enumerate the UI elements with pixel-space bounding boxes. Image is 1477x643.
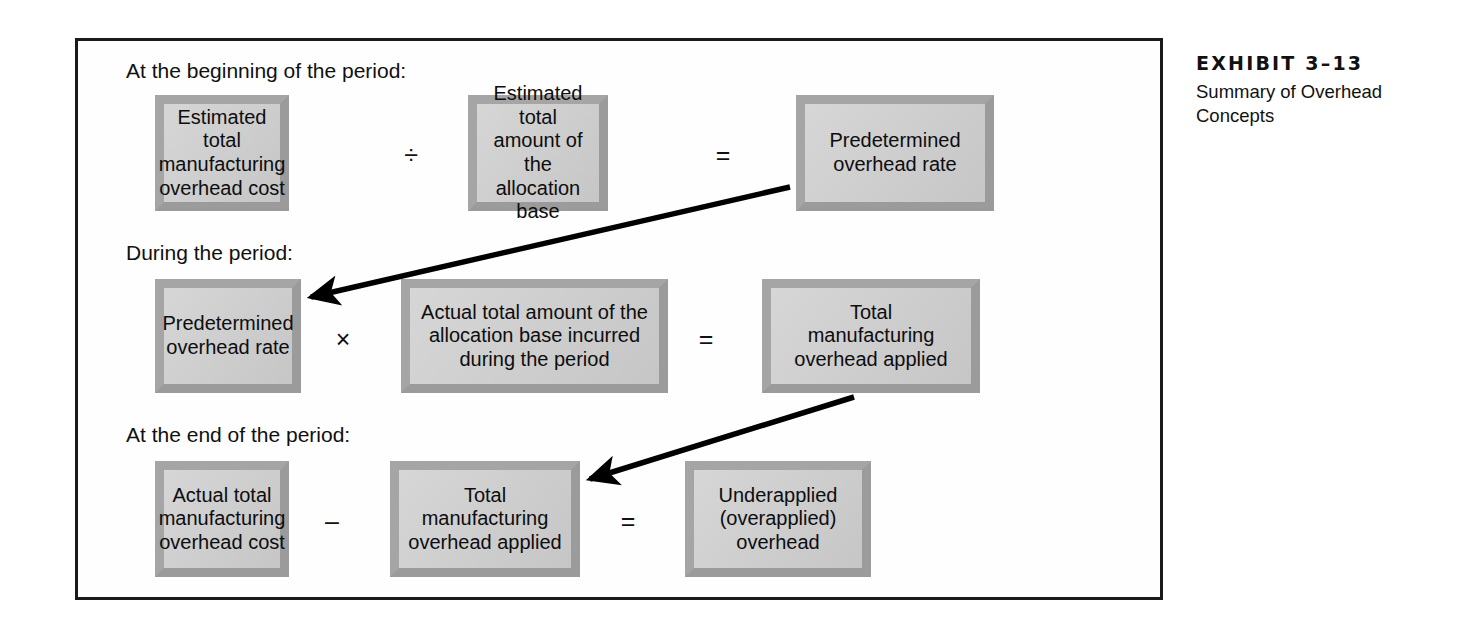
box-predetermined-overhead-rate-row2: Predetermined overhead rate bbox=[155, 279, 301, 393]
operator-equals-row2: = bbox=[686, 325, 726, 354]
exhibit-subtitle-line1: Summary of Overhead bbox=[1196, 80, 1456, 104]
box-total-manufacturing-overhead-applied-row2: Total manufacturing overhead applied bbox=[762, 279, 980, 393]
box-line: Total bbox=[850, 301, 892, 323]
exhibit-subtitle-line2: Concepts bbox=[1196, 104, 1456, 128]
box-line: Predetermined bbox=[162, 312, 293, 334]
box-line: Actual total amount of the bbox=[421, 301, 648, 323]
box-estimated-total-manufacturing-overhead-cost: Estimated total manufacturing overhead c… bbox=[155, 95, 289, 211]
box-line: amount of the bbox=[494, 129, 583, 175]
operator-equals-row1: = bbox=[703, 141, 743, 170]
section-label-beginning: At the beginning of the period: bbox=[126, 59, 406, 83]
operator-equals-row3: = bbox=[608, 507, 648, 536]
operator-divide-row1: ÷ bbox=[391, 141, 431, 170]
box-underapplied-overapplied-overhead: Underapplied (overapplied) overhead bbox=[685, 461, 871, 577]
box-line: allocation base bbox=[496, 177, 581, 223]
box-actual-total-manufacturing-overhead-cost: Actual total manufacturing overhead cost bbox=[155, 461, 289, 577]
box-actual-total-amount-allocation-base-incurred: Actual total amount of the allocation ba… bbox=[401, 279, 668, 393]
box-predetermined-overhead-rate-row1: Predetermined overhead rate bbox=[796, 95, 994, 211]
box-line: overhead bbox=[736, 531, 819, 553]
box-line: manufacturing bbox=[159, 507, 286, 529]
section-label-during: During the period: bbox=[126, 241, 293, 265]
box-line: overhead cost bbox=[159, 177, 285, 199]
exhibit-caption: EXHIBIT 3–13 Summary of Overhead Concept… bbox=[1196, 52, 1456, 129]
operator-multiply-row2: × bbox=[323, 325, 363, 354]
box-line: during the period bbox=[459, 348, 609, 370]
box-line: Actual total bbox=[173, 484, 272, 506]
box-line: (overapplied) bbox=[720, 507, 837, 529]
operator-minus-row3: – bbox=[312, 507, 352, 536]
box-line: overhead rate bbox=[166, 336, 289, 358]
box-line: overhead applied bbox=[794, 348, 947, 370]
box-line: Underapplied bbox=[719, 484, 838, 506]
box-line: manufacturing bbox=[808, 324, 935, 346]
box-line: allocation base incurred bbox=[429, 324, 640, 346]
box-line: Predetermined bbox=[829, 129, 960, 151]
box-line: Total bbox=[464, 484, 506, 506]
box-line: overhead cost bbox=[159, 531, 285, 553]
box-line: Estimated total bbox=[178, 106, 267, 152]
box-line: overhead rate bbox=[833, 153, 956, 175]
exhibit-subtitle: Summary of Overhead Concepts bbox=[1196, 80, 1456, 129]
box-line: manufacturing bbox=[422, 507, 549, 529]
exhibit-frame: At the beginning of the period: Estimate… bbox=[75, 38, 1163, 600]
section-label-end: At the end of the period: bbox=[126, 423, 350, 447]
box-line: Estimated total bbox=[494, 82, 583, 128]
box-line: overhead applied bbox=[408, 531, 561, 553]
box-estimated-total-amount-allocation-base: Estimated total amount of the allocation… bbox=[468, 95, 608, 211]
exhibit-number: EXHIBIT 3–13 bbox=[1196, 52, 1456, 74]
box-total-manufacturing-overhead-applied-row3: Total manufacturing overhead applied bbox=[390, 461, 580, 577]
box-line: manufacturing bbox=[159, 153, 286, 175]
